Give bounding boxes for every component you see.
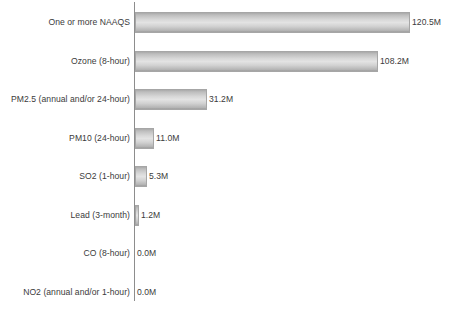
category-label: PM10 (24-hour) — [69, 131, 130, 145]
bar-row: Ozone (8-hour) 108.2M — [0, 51, 449, 72]
bar[interactable] — [135, 89, 207, 110]
category-label: PM2.5 (annual and/or 24-hour) — [11, 92, 130, 106]
category-label: One or more NAAQS — [48, 15, 130, 29]
bar-row: PM2.5 (annual and/or 24-hour) 31.2M — [0, 89, 449, 110]
category-label: Ozone (8-hour) — [71, 54, 130, 68]
value-label: 31.2M — [209, 93, 233, 106]
bar-row: CO (8-hour) 0.0M — [0, 243, 449, 264]
bar-chart: One or more NAAQS 120.5M Ozone (8-hour) … — [0, 0, 449, 315]
bar[interactable] — [135, 51, 378, 72]
value-label: 120.5M — [412, 16, 441, 29]
bar[interactable] — [135, 166, 147, 187]
bar-row: PM10 (24-hour) 11.0M — [0, 128, 449, 149]
category-label: Lead (3-month) — [71, 208, 130, 222]
value-label: 108.2M — [380, 55, 409, 68]
bar[interactable] — [135, 12, 410, 33]
bar-row: Lead (3-month) 1.2M — [0, 205, 449, 226]
bar-row: NO2 (annual and/or 1-hour) 0.0M — [0, 282, 449, 303]
category-label: SO2 (1-hour) — [79, 169, 130, 183]
bar[interactable] — [135, 128, 154, 149]
bar-row: SO2 (1-hour) 5.3M — [0, 166, 449, 187]
category-label: NO2 (annual and/or 1-hour) — [23, 285, 130, 299]
bar[interactable] — [135, 205, 139, 226]
value-label: 0.0M — [137, 247, 156, 260]
value-label: 1.2M — [141, 209, 160, 222]
value-label: 5.3M — [149, 170, 168, 183]
bar-row: One or more NAAQS 120.5M — [0, 12, 449, 33]
category-label: CO (8-hour) — [84, 246, 130, 260]
value-label: 0.0M — [137, 286, 156, 299]
value-label: 11.0M — [156, 132, 180, 145]
